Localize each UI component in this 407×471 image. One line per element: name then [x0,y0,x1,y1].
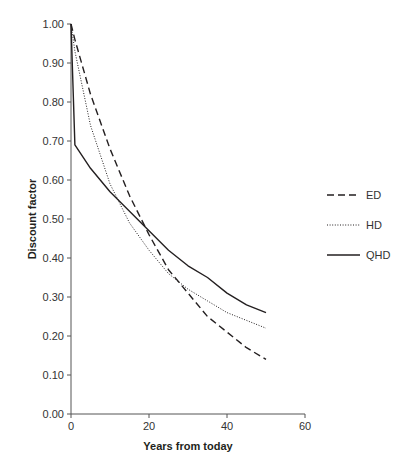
legend-label-ed: ED [366,189,381,201]
x-tick-label: 20 [143,420,155,432]
y-tick-label: 0.10 [43,369,64,381]
axes: 0.000.100.200.300.400.500.600.700.800.90… [43,18,312,432]
y-tick-label: 0.80 [43,96,64,108]
y-tick-label: 0.30 [43,291,64,303]
legend-label-hd: HD [366,219,382,231]
y-tick-label: 0.20 [43,330,64,342]
legend-label-qhd: QHD [366,249,391,261]
series-hd-line [71,24,266,328]
y-axis-title: Discount factor [26,178,38,259]
x-tick-label: 60 [299,420,311,432]
y-tick-label: 0.60 [43,174,64,186]
series-ed-line [71,24,266,359]
y-tick-label: 0.90 [43,57,64,69]
x-tick-label: 0 [68,420,74,432]
y-tick-label: 0.70 [43,135,64,147]
y-tick-label: 1.00 [43,18,64,30]
y-tick-label: 0.40 [43,252,64,264]
legend: EDHDQHD [327,189,391,261]
series-lines [71,24,266,359]
x-axis-title: Years from today [143,440,233,452]
y-tick-label: 0.50 [43,213,64,225]
discount-factor-chart: 0.000.100.200.300.400.500.600.700.800.90… [0,0,407,471]
y-tick-label: 0.00 [43,408,64,420]
x-tick-label: 40 [221,420,233,432]
